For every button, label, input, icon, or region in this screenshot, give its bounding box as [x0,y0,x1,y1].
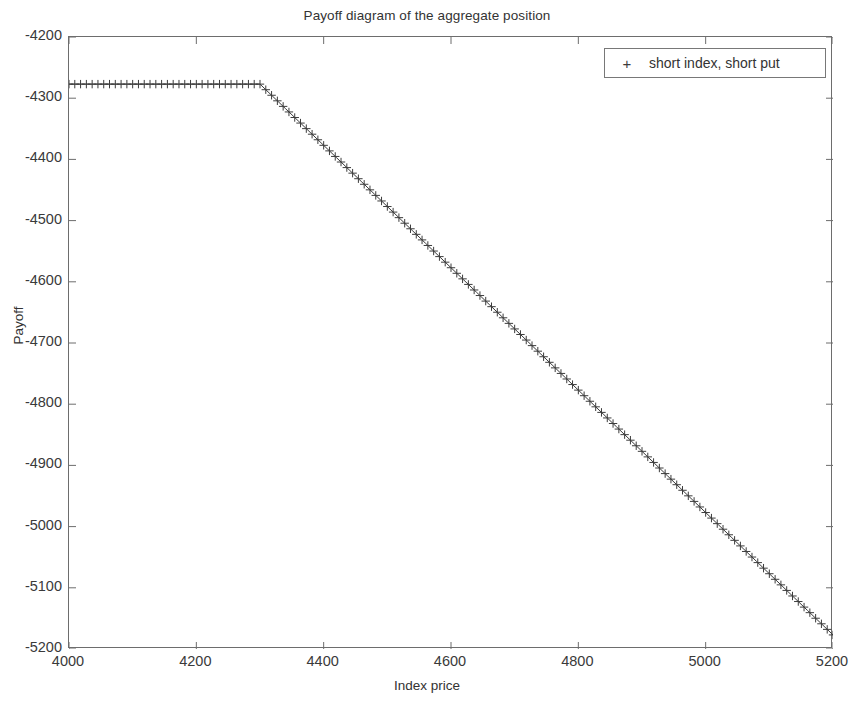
x-axis-label: Index price [0,678,854,693]
y-tick-label: -4700 [0,334,62,349]
data-series-short-index-short-put [69,80,833,639]
y-tick-label: -4600 [0,273,62,288]
y-tick-label: -4300 [0,89,62,104]
y-tick-label: -5000 [0,518,62,533]
x-tick-label: 4200 [155,654,235,669]
legend: + short index, short put [604,48,826,78]
x-tick-label: 4400 [283,654,363,669]
y-tick-label: -4400 [0,150,62,165]
x-tick-label: 4800 [537,654,617,669]
chart-title: Payoff diagram of the aggregate position [0,8,854,23]
figure-canvas: Payoff diagram of the aggregate position… [0,0,854,702]
y-tick-label: -4500 [0,212,62,227]
plot-svg [69,37,833,649]
y-tick-label: -4900 [0,456,62,471]
x-tick-label: 5200 [792,654,854,669]
legend-entry-label: short index, short put [649,55,825,71]
legend-marker-plus-icon: + [605,56,649,71]
plot-area [68,36,832,648]
y-tick-label: -4800 [0,395,62,410]
y-axis-label: Payoff [11,286,26,366]
tick-marks [69,37,833,649]
y-tick-label: -5100 [0,579,62,594]
x-tick-label: 5000 [665,654,745,669]
x-tick-label: 4600 [410,654,490,669]
x-tick-label: 4000 [28,654,108,669]
y-tick-label: -4200 [0,28,62,43]
